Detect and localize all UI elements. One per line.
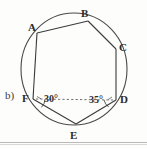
angle-tick-D — [108, 97, 112, 100]
vertex-label-E: E — [70, 130, 77, 141]
vertex-label-D: D — [120, 94, 128, 105]
circumscribed-circle — [21, 13, 127, 125]
hexagon-outline — [33, 21, 116, 124]
scan-edge-line — [0, 142, 147, 143]
scan-edge-line-secondary — [0, 144, 147, 145]
figure-canvas — [0, 0, 147, 149]
part-label: b) — [5, 90, 14, 101]
vertex-label-C: C — [119, 42, 127, 53]
geometry-figure: A B C D E F 30° 35° b) — [0, 0, 147, 149]
angle-label-D: 35° — [89, 95, 103, 105]
angle-label-F: 30° — [44, 94, 58, 104]
chord-BC — [88, 21, 116, 49]
vertex-label-A: A — [28, 22, 36, 33]
chord-FA — [33, 33, 37, 99]
vertex-label-B: B — [81, 8, 88, 19]
vertex-label-F: F — [22, 93, 29, 104]
angle-tick-F — [37, 97, 41, 99]
